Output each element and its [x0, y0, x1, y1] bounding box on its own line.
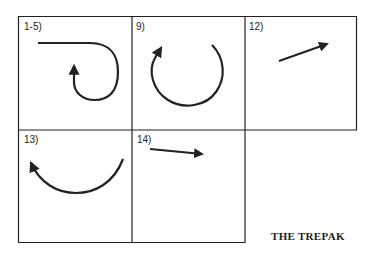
- cell-1-5: 1-5): [24, 21, 118, 100]
- cell-label: 1-5): [24, 21, 42, 32]
- cell-label: 13): [24, 134, 38, 145]
- grid: [18, 16, 357, 243]
- cell-13: 13): [24, 134, 123, 193]
- diagonal-arrow-icon: [279, 44, 327, 61]
- cell-12: 12): [249, 21, 327, 61]
- cell-label: 12): [249, 21, 263, 32]
- cell-label: 14): [137, 134, 151, 145]
- cell-14: 14): [137, 134, 202, 154]
- cell-9: 9): [136, 21, 223, 106]
- diagram-title: THE TREPAK: [271, 230, 345, 242]
- open-circle-arrow-icon: [152, 45, 223, 106]
- right-arrow-icon: [150, 149, 202, 154]
- hook-curve-arrow-icon: [38, 43, 118, 100]
- floor-pattern-diagram: 1-5) 9) 12) 13) 14): [0, 0, 372, 257]
- arc-arrow-icon: [31, 159, 123, 193]
- cell-label: 9): [136, 21, 145, 32]
